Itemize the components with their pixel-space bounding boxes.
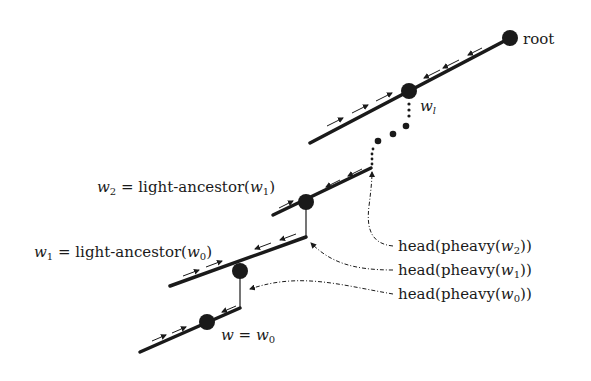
- pointer-head-w1: [311, 243, 393, 270]
- ellipsis-dots: [371, 102, 411, 165]
- head-label-w1: head(pheavy(w1)): [398, 261, 532, 280]
- root-label: root: [523, 30, 554, 48]
- node-wl: [401, 83, 417, 99]
- pointer-head-w2: [368, 172, 393, 246]
- node-w1: [232, 263, 248, 279]
- arrow-icon: [255, 243, 271, 249]
- w0-label: w = w0: [221, 326, 275, 345]
- arrow-icon: [327, 118, 343, 126]
- head-label-w2: head(pheavy(w2)): [398, 237, 532, 256]
- pointer-head-w0: [250, 281, 393, 294]
- arrow-icon: [280, 234, 296, 240]
- arrow-icon: [206, 261, 222, 267]
- light-ancestor-diagram: root wl w2 = light-ancestor(w1) w1 = lig…: [0, 0, 591, 381]
- node-root: [502, 30, 518, 46]
- w1-definition-label: w1 = light-ancestor(w0): [34, 243, 212, 262]
- arrow-icon: [352, 105, 368, 113]
- head-label-w0: head(pheavy(w0)): [398, 285, 532, 304]
- w2-definition-label: w2 = light-ancestor(w1): [97, 178, 275, 197]
- heavy-path-w2: [273, 168, 371, 215]
- node-w2: [298, 194, 314, 210]
- wl-label: wl: [420, 97, 436, 116]
- node-w0: [199, 314, 215, 330]
